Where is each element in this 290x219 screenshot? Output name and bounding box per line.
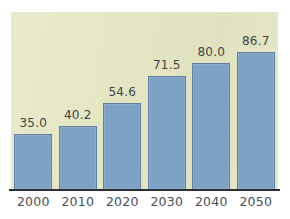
x-tick-label: 2050 [239, 194, 272, 210]
bar-value-label: 54.6 [108, 86, 136, 98]
x-tick-label: 2010 [61, 194, 94, 210]
bars-layer: 35.040.254.671.580.086.7 [11, 12, 278, 190]
bar-value-label: 35.0 [19, 117, 47, 129]
bar-group: 80.0 [192, 12, 230, 190]
bar[interactable] [192, 63, 230, 190]
bar-group: 35.0 [14, 12, 52, 190]
bar-value-label: 71.5 [153, 59, 181, 71]
x-tick-label: 2030 [150, 194, 183, 210]
bar-group: 86.7 [237, 12, 275, 190]
x-tick-label: 2040 [195, 194, 228, 210]
bar[interactable] [103, 103, 141, 190]
bar-value-label: 86.7 [242, 35, 270, 47]
bar-chart-figure: 35.040.254.671.580.086.7 200020102020203… [0, 0, 290, 219]
bar[interactable] [237, 52, 275, 190]
x-axis-line [9, 189, 280, 191]
bar-group: 71.5 [148, 12, 186, 190]
bar[interactable] [148, 76, 186, 190]
bar-value-label: 80.0 [197, 46, 225, 58]
bar-group: 40.2 [59, 12, 97, 190]
x-tick-label: 2000 [17, 194, 50, 210]
x-axis-tick-labels: 200020102020203020402050 [11, 194, 278, 214]
bar[interactable] [14, 134, 52, 190]
bar[interactable] [59, 126, 97, 190]
bar-group: 54.6 [103, 12, 141, 190]
bar-value-label: 40.2 [64, 109, 92, 121]
x-tick-label: 2020 [106, 194, 139, 210]
